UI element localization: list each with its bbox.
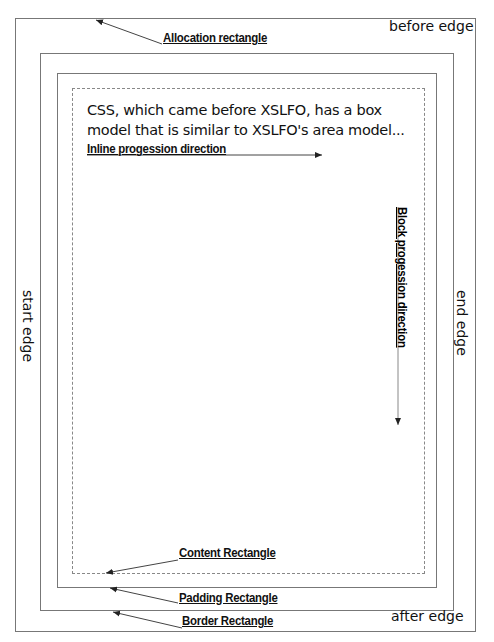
end-edge-label: end edge — [454, 290, 470, 356]
allocation-rectangle-label: Allocation rectangle — [163, 30, 267, 45]
padding-arrow — [110, 588, 178, 603]
body-text: CSS, which came before XSLFO, has a box … — [87, 100, 427, 140]
content-rectangle-label: Content Rectangle — [179, 545, 276, 560]
allocation-arrow — [96, 20, 162, 44]
start-edge-label: start edge — [20, 290, 36, 362]
block-progression-label: Block progession direction — [395, 207, 410, 348]
before-edge-label: before edge — [389, 18, 474, 34]
border-arrow — [113, 612, 182, 628]
after-edge-label: after edge — [391, 608, 464, 624]
padding-rectangle-label: Padding Rectangle — [179, 590, 277, 605]
content-arrow — [106, 560, 178, 573]
inline-progression-label: Inline progession direction — [87, 141, 226, 156]
border-rectangle-label: Border Rectangle — [182, 613, 273, 628]
